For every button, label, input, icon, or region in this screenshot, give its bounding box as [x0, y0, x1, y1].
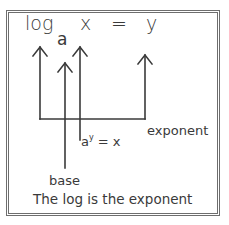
exp-power: y [89, 133, 94, 142]
base-label: base [49, 174, 80, 187]
exp-rest: = x [98, 134, 121, 149]
exponent-label: exponent [147, 124, 208, 137]
exponential-form: ay = x [81, 134, 121, 148]
caption: The log is the exponent [33, 193, 192, 207]
exp-base: a [81, 134, 89, 149]
